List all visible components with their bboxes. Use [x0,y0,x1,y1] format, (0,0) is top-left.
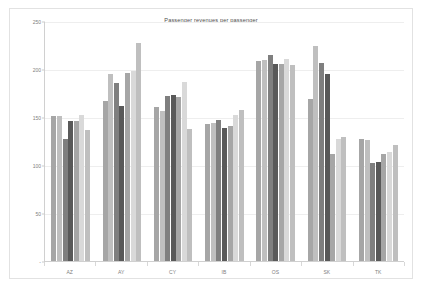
bar [79,115,84,262]
bar [103,101,108,262]
bar [119,106,124,262]
bar [273,64,278,262]
bar [290,65,295,262]
category-label-tk: TK [353,262,404,275]
category-axis-tick [147,262,148,266]
chart-frame: Passenger revenues per passenger -501001… [9,8,413,279]
bar [216,120,221,262]
y-axis-tick-label: 200 [33,67,41,73]
category-label-ay: AY [95,262,146,275]
bar [154,107,159,262]
bar [108,74,113,262]
category-axis: AZAYCYIBOSSKTK [44,262,404,280]
category-label-az: AZ [44,262,95,275]
bar [165,96,170,262]
bar-group-tk [359,22,398,262]
bar [136,43,141,262]
plot-area: -50100150200250 [44,22,404,262]
bar [211,123,216,262]
bar [393,145,398,262]
bar [114,83,119,262]
bar [256,61,261,262]
bar [85,130,90,262]
bar [279,64,284,262]
bar [222,128,227,262]
bar-group-os [256,22,295,262]
bar [182,82,187,262]
category-label-ib: IB [198,262,249,275]
y-axis-tick-label: 100 [33,163,41,169]
bar-group-ib [205,22,244,262]
bar [268,55,273,262]
category-axis-tick [198,262,199,266]
bar [63,139,68,262]
bar [376,162,381,262]
bar [125,73,130,262]
category-axis-tick [404,262,405,266]
bar-groups [45,22,404,262]
bar [131,71,136,262]
bar-group-sk [308,22,347,262]
bar [160,111,165,262]
bar [171,95,176,262]
category-axis-tick [250,262,251,266]
bar [313,46,318,262]
bar [341,137,346,262]
bar [319,63,324,262]
bar [370,163,375,262]
category-axis-tick [353,262,354,266]
bar [359,139,364,262]
y-axis-tick-label: 250 [33,19,41,25]
bar [205,124,210,262]
bar [387,152,392,262]
y-axis-tick-label: 50 [35,211,41,217]
bar [187,129,192,262]
bar [325,74,330,262]
bar-group-cy [154,22,193,262]
y-axis-tick-label: 150 [33,115,41,121]
bar [57,116,62,262]
category-axis-tick [301,262,302,266]
bar [381,154,386,262]
bar [365,140,370,262]
bar [239,110,244,262]
category-axis-tick [44,262,45,266]
bar [74,121,79,262]
category-axis-tick [95,262,96,266]
y-axis-tick-label: - [39,259,41,265]
bar [233,115,238,262]
bar [228,126,233,262]
bar [336,139,341,262]
bar [284,59,289,262]
bar [308,99,313,262]
category-label-os: OS [250,262,301,275]
category-label-sk: SK [301,262,352,275]
category-label-cy: CY [147,262,198,275]
bar [176,97,181,262]
bar-group-az [51,22,90,262]
bar [68,121,73,262]
bar [330,154,335,262]
bar-group-ay [103,22,142,262]
bar [262,60,267,262]
bar [51,116,56,262]
